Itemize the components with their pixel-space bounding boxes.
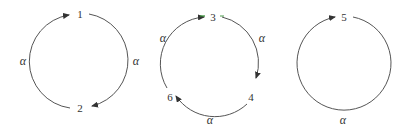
cycle-diagram: 1 2 α α 3 4 6 α α α 5 α xyxy=(0,0,412,130)
edge-label-2-1: α xyxy=(20,54,27,68)
arrow-1-to-2 xyxy=(89,14,128,106)
node-2: 2 xyxy=(77,102,83,114)
cycle-5: 5 α xyxy=(297,11,391,127)
edge-label-5-5: α xyxy=(340,113,347,127)
edge-label-4-6: α xyxy=(207,113,214,127)
edge-label-1-2: α xyxy=(133,54,140,68)
arrow-6-to-3 xyxy=(160,17,204,88)
node-1: 1 xyxy=(77,8,83,20)
cycle-1-2: 1 2 α α xyxy=(20,8,140,114)
edge-label-3-4: α xyxy=(259,31,266,45)
node-4: 4 xyxy=(248,91,254,103)
arrow-5-to-5 xyxy=(297,17,391,110)
node-6: 6 xyxy=(167,91,173,103)
node-5: 5 xyxy=(341,11,347,23)
edge-label-6-3: α xyxy=(160,31,167,45)
cycle-3-4-6: 3 4 6 α α α xyxy=(160,11,266,127)
node-3: 3 xyxy=(210,11,216,23)
arrow-2-to-1 xyxy=(29,15,70,108)
arrow-3-to-4 xyxy=(222,17,259,78)
